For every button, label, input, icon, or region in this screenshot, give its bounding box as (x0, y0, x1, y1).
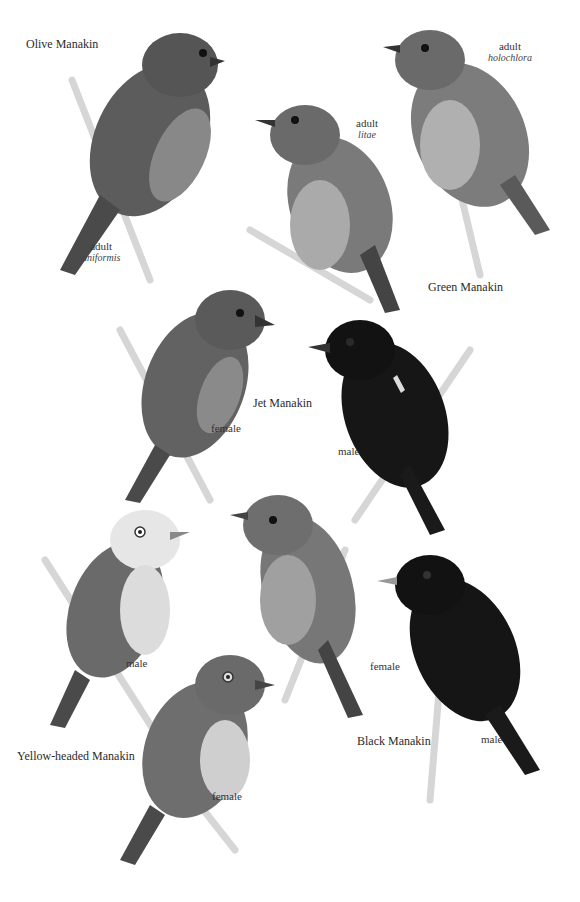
species-label-yellow-headed-manakin: Yellow-headed Manakin (17, 750, 135, 763)
species-label-black-manakin: Black Manakin (357, 735, 431, 748)
figure-label-yellow-headed-female: female (212, 790, 242, 802)
olive-manakin-uniformis-illustration (40, 25, 240, 285)
figure-label-green-litae: adult litae (356, 117, 378, 140)
age-label: adult (499, 40, 521, 52)
age-label: adult (356, 117, 378, 129)
subspecies-label: holochlora (488, 52, 532, 63)
figure-label-jet-female: female (211, 422, 241, 434)
figure-label-yellow-headed-male: male (126, 657, 147, 669)
green-manakin-holochlora-illustration (380, 25, 560, 245)
figure-label-green-holochlora: adult holochlora (488, 40, 532, 63)
age-label: adult (90, 240, 112, 252)
figure-label-olive-adult: adult uniformis (82, 240, 120, 263)
figure-label-black-male: male (481, 733, 502, 745)
figure-label-jet-male: male (338, 445, 359, 457)
species-label-jet-manakin: Jet Manakin (253, 397, 312, 410)
subspecies-label: litae (356, 129, 378, 140)
subspecies-label: uniformis (82, 252, 120, 263)
species-label-green-manakin: Green Manakin (428, 281, 503, 294)
figure-label-black-female: female (370, 660, 400, 672)
black-manakin-male-illustration (375, 555, 555, 785)
black-manakin-female-illustration (228, 490, 398, 720)
species-label-olive-manakin: Olive Manakin (26, 38, 98, 51)
illustration-plate: Olive Manakin adult uniformis adult lita… (0, 0, 580, 902)
jet-manakin-female-illustration (115, 285, 285, 505)
